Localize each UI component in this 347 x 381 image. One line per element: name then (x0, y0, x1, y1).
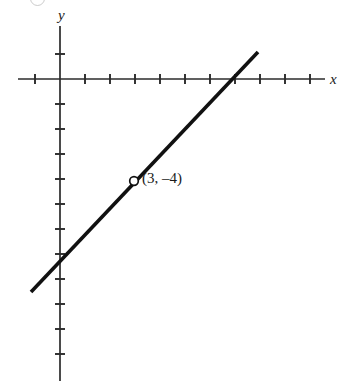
graph-figure: x y (3, –4) (0, 0, 347, 381)
open-point-marker (130, 177, 139, 186)
coordinate-plane (0, 0, 347, 381)
x-axis-label: x (330, 72, 337, 87)
point-coordinate-label: (3, –4) (142, 171, 182, 186)
y-axis-label: y (58, 8, 65, 23)
